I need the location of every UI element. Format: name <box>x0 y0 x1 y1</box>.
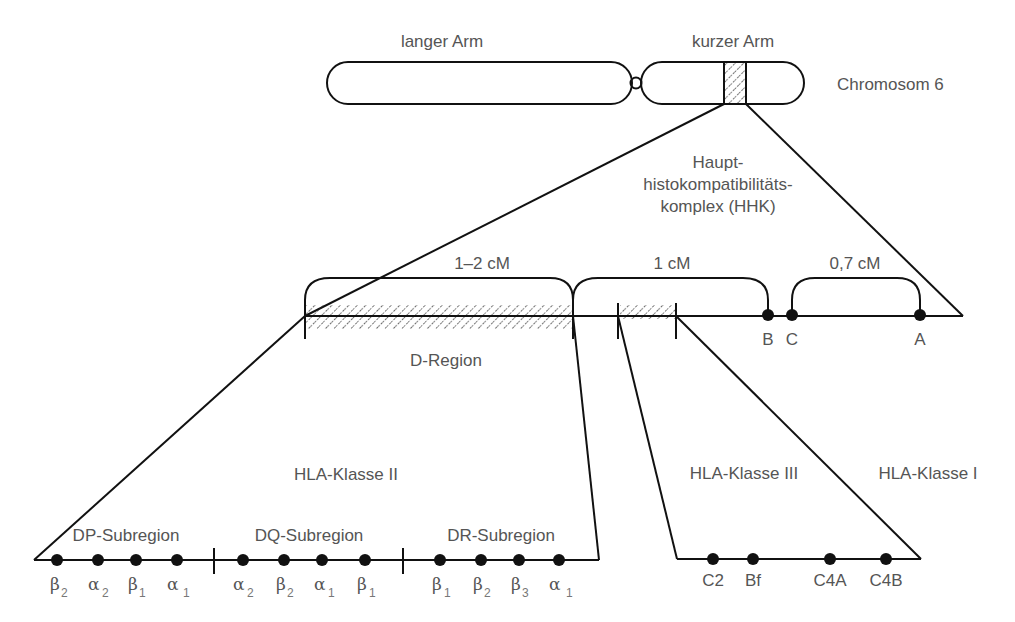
gene-dot <box>513 554 525 566</box>
long-arm-label: langer Arm <box>401 32 483 51</box>
gene-dot <box>434 554 446 566</box>
hhk-label-line1: Haupt- <box>692 153 743 172</box>
class-iii-label: HLA-Klasse III <box>690 464 799 483</box>
gene-greek: α <box>314 574 326 594</box>
locus-b-label: B <box>762 330 773 349</box>
long-arm <box>327 62 632 104</box>
locus-c-label: C <box>786 330 798 349</box>
distance-middle: 1 cM <box>654 254 691 273</box>
gene-subscript: 1 <box>444 586 451 600</box>
gene-greek: β <box>357 574 367 594</box>
gene-bf-dot <box>747 553 759 565</box>
gene-subscript: 2 <box>247 586 254 600</box>
gene-greek: β <box>473 574 483 594</box>
gene-subscript: 2 <box>102 586 109 600</box>
gene-c2-dot <box>707 553 719 565</box>
gene-subscript: 1 <box>183 586 190 600</box>
locus-a-dot <box>914 309 926 321</box>
gene-greek: α <box>549 574 561 594</box>
gene-greek: β <box>511 574 521 594</box>
hhk-label-line2: histokompatibilitäts- <box>643 175 792 194</box>
gene-subscript: 1 <box>566 586 573 600</box>
gene-dot <box>475 554 487 566</box>
gene-c4b-label: C4B <box>869 571 902 590</box>
gene-dot <box>130 554 142 566</box>
dp-subregion-label: DP-Subregion <box>73 526 180 545</box>
gene-greek: β <box>276 574 286 594</box>
gene-c4b-dot <box>880 553 892 565</box>
hhk-label-line3: komplex (HHK) <box>660 197 775 216</box>
gene-bf-label: Bf <box>745 571 761 590</box>
gene-c4a-label: C4A <box>813 571 847 590</box>
gene-subscript: 2 <box>484 586 491 600</box>
class-i-label: HLA-Klasse I <box>878 464 977 483</box>
gene-dot <box>237 554 249 566</box>
projection-line-right <box>746 104 963 316</box>
gene-subscript: 3 <box>522 586 529 600</box>
gene-greek: α <box>88 574 100 594</box>
d-region-label: D-Region <box>410 351 482 370</box>
gene-greek: β <box>128 574 138 594</box>
dr-subregion-label: DR-Subregion <box>447 526 555 545</box>
locus-c-dot <box>786 309 798 321</box>
distance-d-region: 1–2 cM <box>454 254 510 273</box>
chromosome-name: Chromosom 6 <box>837 75 944 94</box>
gene-c2-label: C2 <box>702 571 724 590</box>
dq-subregion-label: DQ-Subregion <box>255 526 364 545</box>
short-arm-label: kurzer Arm <box>692 32 774 51</box>
class-iii-left-line <box>618 316 677 559</box>
gene-greek: β <box>432 574 442 594</box>
gene-dot <box>171 554 183 566</box>
distance-c-to-a: 0,7 cM <box>829 254 880 273</box>
gene-subscript: 1 <box>328 586 335 600</box>
class-ii-left-line <box>34 316 305 560</box>
gene-greek: β <box>50 574 60 594</box>
gene-dot <box>278 554 290 566</box>
gene-c4a-dot <box>824 553 836 565</box>
gene-dot <box>92 554 104 566</box>
gene-subscript: 2 <box>287 586 294 600</box>
gene-dot <box>316 554 328 566</box>
locus-a-label: A <box>914 330 926 349</box>
short-arm <box>641 62 804 104</box>
hhk-band <box>724 62 746 104</box>
gene-subscript: 2 <box>61 586 68 600</box>
gene-dot <box>51 554 63 566</box>
gene-subscript: 1 <box>139 586 146 600</box>
class-ii-right-line <box>573 316 599 560</box>
bracket-c-to-a <box>792 278 920 316</box>
class-iii-right-line <box>676 316 921 559</box>
gene-greek: α <box>233 574 245 594</box>
gene-subscript: 1 <box>369 586 376 600</box>
hla-diagram: langer Arm kurzer Arm Chromosom 6 Haupt-… <box>0 0 1015 622</box>
class-ii-label: HLA-Klasse II <box>294 465 398 484</box>
gene-dot <box>553 554 565 566</box>
gene-dot <box>359 554 371 566</box>
locus-b-dot <box>762 309 774 321</box>
gene-greek: α <box>167 574 179 594</box>
